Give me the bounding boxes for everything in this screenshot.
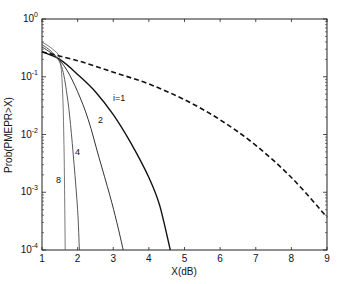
curve-label: i=1 bbox=[113, 93, 125, 103]
y-axis-title: Prob(PMEPR>X) bbox=[3, 97, 14, 173]
y-tick-label: 10-3 bbox=[21, 184, 38, 197]
x-tick-label: 8 bbox=[289, 253, 295, 264]
y-tick-label: 100 bbox=[23, 11, 38, 24]
x-axis-title: X(dB) bbox=[171, 266, 197, 277]
curve-label: 8 bbox=[56, 175, 61, 185]
axis-ticks: 12345678910010-110-210-310-4 bbox=[21, 11, 331, 264]
curve-i-2 bbox=[42, 47, 123, 250]
curves bbox=[42, 42, 327, 250]
y-tick-label: 10-2 bbox=[21, 127, 38, 140]
x-tick-label: 4 bbox=[146, 253, 152, 264]
y-tick-label: 10-4 bbox=[21, 242, 38, 255]
curve-label: 4 bbox=[75, 147, 80, 157]
x-tick-label: 3 bbox=[110, 253, 116, 264]
curve-i-4 bbox=[42, 45, 79, 250]
x-tick-label: 1 bbox=[39, 253, 45, 264]
x-tick-label: 2 bbox=[75, 253, 81, 264]
curve-original bbox=[42, 52, 327, 217]
curve-label: 2 bbox=[98, 115, 103, 125]
curve-labels: i=1248 bbox=[56, 93, 125, 185]
x-tick-label: 6 bbox=[217, 253, 223, 264]
curve-i-1 bbox=[42, 52, 170, 250]
x-tick-label: 7 bbox=[253, 253, 259, 264]
curve-i-8 bbox=[42, 42, 65, 250]
y-tick-label: 10-1 bbox=[21, 69, 38, 82]
x-tick-label: 5 bbox=[182, 253, 188, 264]
plot-frame bbox=[42, 19, 327, 250]
chart: 12345678910010-110-210-310-4 i=1248 X(dB… bbox=[0, 0, 341, 284]
x-tick-label: 9 bbox=[324, 253, 330, 264]
